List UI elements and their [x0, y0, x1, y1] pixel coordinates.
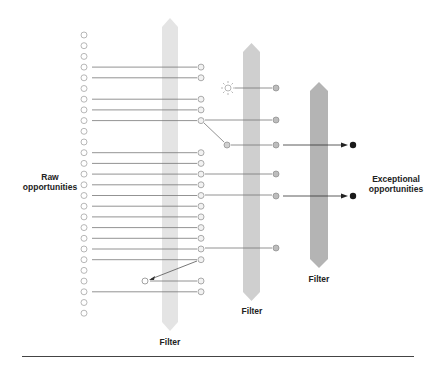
bottom-divider [22, 356, 414, 357]
stage1-survivor-circle [198, 246, 204, 252]
raw-opportunity-circle [81, 257, 87, 263]
stage1-survivor-circle [198, 235, 204, 241]
raw-opportunity-circle [81, 182, 87, 188]
stage1-survivor-circle [198, 225, 204, 231]
exceptional-label-line2: opportunities [362, 184, 430, 194]
stage1-survivor-circle [198, 118, 204, 124]
stage1-survivor-circle [198, 150, 204, 156]
filter-label-1: Filter [150, 337, 190, 347]
raw-opportunity-circle [81, 96, 87, 102]
sun-icon [221, 81, 235, 95]
raw-opportunity-circle [81, 53, 87, 59]
filter-label-3: Filter [299, 274, 339, 284]
raw-opportunity-circle [81, 225, 87, 231]
raw-opportunity-circle [81, 289, 87, 295]
raw-opportunity-circle [81, 267, 87, 273]
raw-opportunity-circle [81, 193, 87, 199]
stage1-survivor-circle [198, 193, 204, 199]
raw-opportunity-circle [81, 128, 87, 134]
stage1-survivor-circle [198, 107, 204, 113]
raw-opportunity-circle [81, 300, 87, 306]
raw-label-line2: opportunities [20, 182, 80, 192]
raw-opportunity-circle [81, 32, 87, 38]
stage1-survivor-circle [198, 75, 204, 81]
stage1-survivor-circle [198, 257, 204, 263]
stage1-survivor-circles [198, 64, 204, 295]
raw-opportunity-circle [81, 43, 87, 49]
stage1-survivor-circle [198, 160, 204, 166]
raw-opportunity-circle [81, 64, 87, 70]
filter-label-2: Filter [232, 306, 272, 316]
stage1-survivor-circle [198, 171, 204, 177]
raw-opportunity-circle [81, 235, 87, 241]
stage1-connection-lines [92, 67, 197, 292]
exceptional-label-line1: Exceptional [362, 174, 430, 184]
stage2-lines [204, 88, 272, 248]
rerouted-opportunity-circle [142, 278, 148, 284]
stage1-survivor-circle [198, 182, 204, 188]
stage1-survivor-circle [198, 203, 204, 209]
exceptional-dot-2 [350, 193, 356, 199]
raw-opportunity-circle [81, 171, 87, 177]
raw-opportunity-circle [81, 75, 87, 81]
raw-opportunity-circle [81, 214, 87, 220]
raw-opportunity-circle [81, 160, 87, 166]
raw-opportunity-circle [81, 86, 87, 92]
raw-opportunity-circle [81, 107, 87, 113]
raw-opportunity-circle [81, 139, 87, 145]
stage1-survivor-circle [198, 214, 204, 220]
stage2-survivor-circles [273, 85, 279, 251]
filter-arrow-3 [310, 82, 328, 268]
reroute-arrowhead [149, 276, 155, 280]
raw-opportunity-circle [81, 310, 87, 316]
exceptional-opportunities-label: Exceptional opportunities [362, 174, 430, 194]
stage1-survivor-circle [198, 96, 204, 102]
raw-opportunity-circle [81, 203, 87, 209]
exceptional-dot-1 [350, 142, 356, 148]
stage2-new-circle [224, 142, 230, 148]
final-arrowhead-2 [341, 194, 348, 199]
raw-opportunity-circle [81, 118, 87, 124]
filter-arrow-2 [243, 43, 260, 301]
final-arrowhead-1 [341, 143, 348, 148]
raw-opportunity-circle [81, 246, 87, 252]
raw-opportunity-circle [81, 150, 87, 156]
raw-opportunity-circle [81, 278, 87, 284]
raw-label-line1: Raw [20, 172, 80, 182]
raw-opportunities-label: Raw opportunities [20, 172, 80, 192]
raw-opportunity-circles [81, 32, 87, 316]
stage1-survivor-circle [198, 64, 204, 70]
